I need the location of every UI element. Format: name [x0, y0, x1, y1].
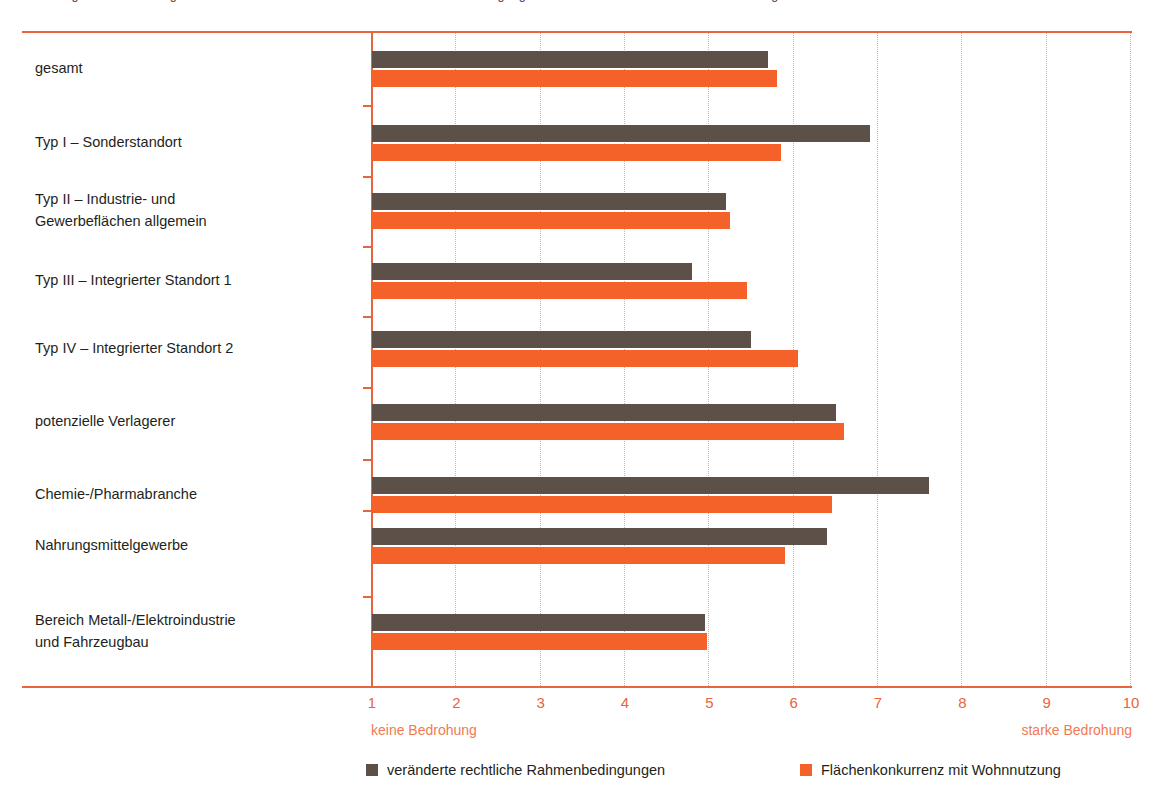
bar-8-series-1 [372, 633, 707, 650]
legend-item-0[interactable]: veränderte rechtliche Rahmenbedingungen [366, 762, 665, 778]
group-tick-1 [363, 176, 372, 178]
category-label-line: potenzielle Verlagerer [35, 410, 365, 432]
category-label-line: und Fahrzeugbau [35, 631, 365, 653]
group-tick-4 [363, 387, 372, 389]
x-tick-1: 1 [352, 694, 392, 711]
group-tick-2 [363, 246, 372, 248]
axis-note-left: keine Bedrohung [371, 722, 477, 738]
category-label-line: gesamt [35, 57, 365, 79]
bar-8-series-0 [372, 614, 705, 631]
group-tick-6 [363, 510, 372, 512]
x-tick-4: 4 [605, 694, 645, 711]
group-tick-7 [363, 596, 372, 598]
legend-label: Flächenkonkurrenz mit Wohnnutzung [821, 762, 1061, 778]
bar-0-series-0 [372, 51, 768, 68]
category-label-4: Typ IV – Integrierter Standort 2 [35, 337, 365, 359]
category-label-line: Typ II – Industrie- und [35, 188, 365, 210]
legend-item-1[interactable]: Flächenkonkurrenz mit Wohnnutzung [800, 762, 1061, 778]
bar-4-series-0 [372, 331, 751, 348]
bar-1-series-1 [372, 144, 781, 161]
category-label-line: Typ III – Integrierter Standort 1 [35, 269, 365, 291]
bar-4-series-1 [372, 350, 798, 367]
bar-3-series-0 [372, 263, 692, 280]
gridline-8 [961, 33, 963, 686]
category-label-7: Nahrungsmittelgewerbe [35, 534, 365, 556]
category-label-0: gesamt [35, 57, 365, 79]
legend-swatch-icon [366, 764, 378, 776]
category-label-5: potenzielle Verlagerer [35, 410, 365, 432]
group-tick-5 [363, 459, 372, 461]
gridline-9 [1046, 33, 1048, 686]
legend-swatch-icon [800, 764, 812, 776]
x-tick-5: 5 [689, 694, 729, 711]
chart-bottom-rule [22, 686, 1132, 688]
x-tick-7: 7 [858, 694, 898, 711]
bar-0-series-1 [372, 70, 777, 87]
category-label-line: Typ IV – Integrierter Standort 2 [35, 337, 365, 359]
chart-legend: veränderte rechtliche RahmenbedingungenF… [0, 762, 1162, 786]
bar-2-series-0 [372, 193, 726, 210]
x-tick-9: 9 [1027, 694, 1067, 711]
category-label-line: Typ I – Sonderstandort [35, 131, 365, 153]
category-label-line: Bereich Metall-/Elektroindustrie [35, 609, 365, 631]
bar-2-series-1 [372, 212, 730, 229]
category-label-1: Typ I – Sonderstandort [35, 131, 365, 153]
x-tick-3: 3 [521, 694, 561, 711]
category-label-line: Nahrungsmittelgewerbe [35, 534, 365, 556]
bar-3-series-1 [372, 282, 747, 299]
x-tick-6: 6 [774, 694, 814, 711]
bar-chart: gesamtTyp I – SonderstandortTyp II – Ind… [0, 0, 1162, 801]
chart-top-rule [22, 31, 1132, 33]
x-tick-10: 10 [1111, 694, 1151, 711]
x-tick-8: 8 [942, 694, 982, 711]
bar-6-series-0 [372, 477, 929, 494]
gridline-7 [877, 33, 879, 686]
x-tick-2: 2 [436, 694, 476, 711]
category-label-3: Typ III – Integrierter Standort 1 [35, 269, 365, 291]
bar-5-series-0 [372, 404, 836, 421]
category-label-line: Chemie-/Pharmabranche [35, 483, 365, 505]
group-tick-0 [363, 105, 372, 107]
bar-7-series-0 [372, 528, 827, 545]
bar-5-series-1 [372, 423, 844, 440]
gridline-10 [1130, 33, 1132, 686]
category-label-8: Bereich Metall-/Elektroindustrieund Fahr… [35, 609, 365, 653]
bar-6-series-1 [372, 496, 832, 513]
group-tick-3 [363, 316, 372, 318]
legend-label: veränderte rechtliche Rahmenbedingungen [387, 762, 665, 778]
axis-note-right: starke Bedrohung [1021, 722, 1132, 738]
category-label-line: Gewerbeflächen allgemein [35, 210, 365, 232]
category-label-2: Typ II – Industrie- undGewerbeflächen al… [35, 188, 365, 232]
bar-7-series-1 [372, 547, 785, 564]
category-label-6: Chemie-/Pharmabranche [35, 483, 365, 505]
bar-1-series-0 [372, 125, 870, 142]
